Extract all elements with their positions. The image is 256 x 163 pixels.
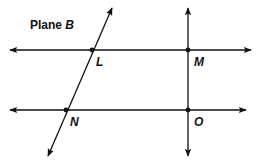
plane-title: Plane B bbox=[30, 19, 74, 31]
point-label-M: M bbox=[194, 56, 204, 68]
point-O-dot bbox=[186, 108, 191, 113]
point-L-dot bbox=[90, 48, 95, 53]
point-label-O: O bbox=[194, 116, 203, 128]
point-M-dot bbox=[186, 48, 191, 53]
point-label-N: N bbox=[70, 116, 79, 128]
plane-title-prefix: Plane bbox=[30, 18, 65, 32]
point-N-dot bbox=[64, 108, 69, 113]
plane-name: B bbox=[65, 18, 74, 32]
point-label-L: L bbox=[96, 56, 103, 68]
